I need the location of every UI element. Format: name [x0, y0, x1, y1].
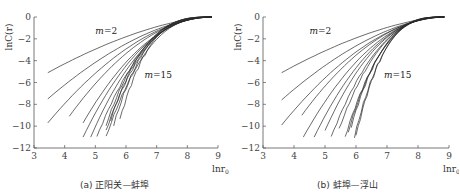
caption-a: (a) 正阳关—蚌埠: [80, 178, 149, 191]
x-tick-label: 9: [446, 151, 452, 161]
x-axis-title: lnr0: [443, 164, 459, 175]
y-tick-label: −6: [247, 78, 261, 88]
y-tick-label: −8: [18, 99, 32, 109]
x-tick-label: 7: [154, 151, 160, 161]
series-line-m-2: [282, 17, 445, 73]
annotation-m2: m=2: [310, 26, 332, 36]
chart-panel-a: 0−2−4−6−8−10−123456789lnC(r)lnr0m=2m=15 …: [0, 0, 230, 196]
x-tick-label: 6: [123, 151, 129, 161]
x-tick-label: 3: [260, 151, 266, 161]
x-tick-label: 7: [384, 151, 390, 161]
annotation-m15: m=15: [384, 70, 412, 80]
y-tick-label: −12: [12, 143, 31, 153]
x-tick-label: 5: [322, 151, 328, 161]
x-tick-label: 5: [92, 151, 98, 161]
x-tick-label: 8: [415, 151, 421, 161]
y-tick-label: −8: [247, 99, 261, 109]
y-axis-title: lnC(r): [233, 24, 243, 51]
curves: [282, 17, 445, 138]
x-tick-label: 4: [291, 151, 297, 161]
y-tick-label: −6: [18, 78, 32, 88]
y-tick-label: −10: [12, 121, 31, 131]
y-tick-label: −12: [241, 143, 260, 153]
x-tick-label: 9: [215, 151, 221, 161]
y-axis-title: lnC(r): [4, 24, 14, 51]
y-tick-label: 0: [254, 12, 260, 22]
y-tick-label: −10: [241, 121, 260, 131]
annotation-m2: m=2: [95, 26, 117, 36]
chart-plot-b: 0−2−4−6−8−10−123456789lnC(r)lnr0m=2m=15: [229, 0, 459, 178]
caption-b: (b) 蚌埠—浮山: [317, 178, 378, 191]
axes: 0−2−4−6−8−10−123456789: [241, 12, 452, 161]
x-axis-title: lnr0: [212, 164, 229, 175]
y-tick-label: −4: [18, 56, 32, 66]
x-tick-label: 4: [62, 151, 68, 161]
series-line-m-2: [48, 17, 212, 73]
x-tick-label: 8: [184, 151, 190, 161]
x-tick-label: 3: [31, 151, 37, 161]
chart-panel-b: 0−2−4−6−8−10−123456789lnC(r)lnr0m=2m=15 …: [229, 0, 459, 196]
annotation-m15: m=15: [144, 70, 172, 80]
x-tick-label: 6: [353, 151, 359, 161]
chart-plot-a: 0−2−4−6−8−10−123456789lnC(r)lnr0m=2m=15: [0, 0, 230, 178]
y-tick-label: −2: [18, 34, 31, 44]
curves: [48, 17, 212, 137]
y-tick-label: 0: [25, 12, 31, 22]
y-tick-label: −4: [247, 56, 261, 66]
y-tick-label: −2: [247, 34, 260, 44]
